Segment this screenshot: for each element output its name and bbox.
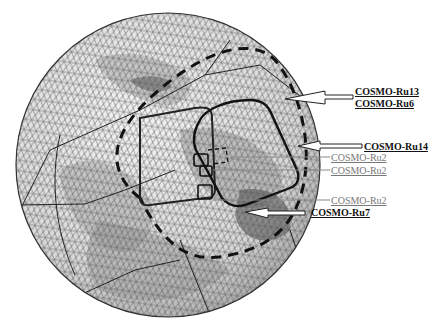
label-cosmo-ru2-b: COSMO-Ru2 [331, 165, 387, 176]
label-cosmo-ru13: COSMO-Ru13 [355, 86, 419, 97]
label-cosmo-ru2-c: COSMO-Ru2 [331, 195, 387, 206]
label-cosmo-ru6: COSMO-Ru6 [355, 98, 414, 109]
figure: COSMO-Ru13 COSMO-Ru6 COSMO-Ru14 COSMO-Ru… [0, 0, 439, 321]
label-cosmo-ru2-a: COSMO-Ru2 [331, 152, 387, 163]
label-cosmo-ru14: COSMO-Ru14 [364, 141, 428, 152]
label-cosmo-ru7: COSMO-Ru7 [311, 207, 370, 218]
